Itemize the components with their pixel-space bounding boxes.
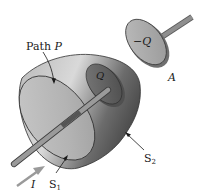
s2-pointer [125,132,144,150]
label-charge-outer: −Q [133,35,151,48]
diagram: Path P −Q A Q S2 S1 I [0,0,198,195]
label-s1: S1 [49,178,61,192]
outer-plate-rod [160,17,192,38]
label-s2: S2 [144,152,156,166]
label-current-i: I [30,178,36,191]
label-plate-a: A [167,71,176,84]
label-path-p: Path P [26,40,62,53]
label-charge-inner: Q [96,70,104,81]
